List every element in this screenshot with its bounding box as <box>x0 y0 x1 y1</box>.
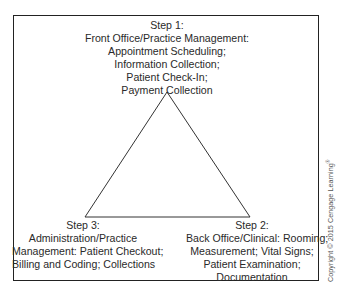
step-1-label: Step 1: Front Office/Practice Management… <box>67 19 267 96</box>
step-1-title: Step 1: <box>67 19 267 32</box>
registered-mark: ® <box>325 159 331 163</box>
step-2-line: Patient Examination; <box>186 258 318 271</box>
step-3-line: Management: Patient Checkout; <box>12 245 154 258</box>
step-1-line: Appointment Scheduling; <box>67 45 267 58</box>
step-1-line: Information Collection; <box>67 58 267 71</box>
step-2-title: Step 2: <box>186 219 318 232</box>
step-2-line: Measurement; Vital Signs; <box>186 245 318 258</box>
step-2-line: Back Office/Clinical: Rooming; <box>186 232 318 245</box>
step-2-line: Documentation <box>186 271 318 284</box>
step-3-line: Billing and Coding; Collections <box>12 258 154 271</box>
copyright-notice: Copyright © 2015 Cengage Learning® <box>325 159 335 282</box>
step-3-title: Step 3: <box>12 219 154 232</box>
step-2-label: Step 2: Back Office/Clinical: Rooming; M… <box>186 219 318 284</box>
step-3-label: Step 3: Administration/Practice Manageme… <box>12 219 154 271</box>
copyright-text: Copyright © 2015 Cengage Learning <box>326 163 335 282</box>
triangle-shape <box>85 92 250 217</box>
step-1-line: Payment Collection <box>67 84 267 97</box>
step-1-line: Front Office/Practice Management: <box>67 32 267 45</box>
step-1-line: Patient Check-In; <box>67 71 267 84</box>
step-3-line: Administration/Practice <box>12 232 154 245</box>
